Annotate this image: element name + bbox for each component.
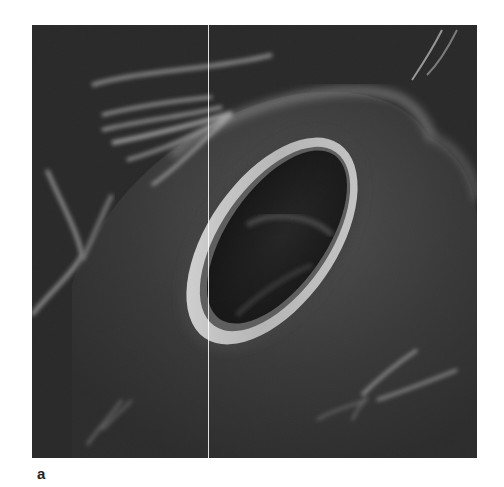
stoma-image [32, 25, 477, 458]
scan-artifact-line [208, 25, 209, 458]
figure-panel: a [0, 0, 504, 487]
sem-micrograph [32, 25, 477, 458]
panel-label: a [37, 466, 45, 481]
